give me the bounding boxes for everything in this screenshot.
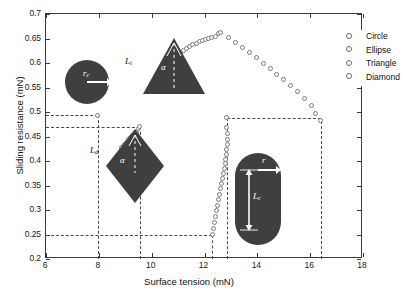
x-tick-label: 14: [252, 260, 261, 270]
x-axis-label: Surface tension (mN): [0, 276, 378, 287]
y-tick-right: [357, 112, 361, 113]
guide-line-vertical: [212, 235, 213, 260]
x-tick-top: [310, 14, 311, 18]
legend-item-diamond[interactable]: Diamond: [334, 71, 405, 84]
data-point-ellipse: [218, 186, 223, 191]
diamond-inset: Ld α: [104, 127, 166, 205]
y-tick: [46, 63, 50, 64]
data-point-ellipse: [224, 147, 229, 152]
data-point-ellipse: [213, 214, 218, 219]
capsule-inset: r Lc: [232, 150, 284, 248]
legend-marker-icon: [346, 33, 352, 39]
data-point-ellipse: [219, 181, 224, 186]
x-tick: [99, 253, 100, 257]
legend-marker-icon: [346, 60, 352, 66]
legend-label: Ellipse: [366, 44, 391, 56]
y-tick-right: [357, 186, 361, 187]
x-tick-top: [257, 14, 258, 18]
y-tick-label: 0.5: [8, 106, 41, 116]
plot-area: rc Lt α Ld: [45, 13, 362, 258]
data-point-triangle: [295, 89, 300, 94]
diamond-angle-label: α: [120, 155, 125, 165]
triangle-side-label: Lt: [125, 56, 132, 66]
guide-line-horizontal: [227, 118, 321, 119]
data-point-ellipse: [212, 220, 217, 225]
legend-marker-icon: [346, 46, 352, 52]
x-tick-top: [152, 14, 153, 18]
data-point-triangle: [268, 66, 273, 71]
data-point-triangle: [313, 111, 318, 116]
data-point-ellipse: [210, 232, 215, 237]
y-tick-right: [357, 137, 361, 138]
data-point-ellipse: [214, 208, 219, 213]
data-point-triangle: [240, 45, 245, 50]
data-point-ellipse: [225, 131, 230, 136]
y-tick: [46, 137, 50, 138]
legend-marker-icon: [346, 73, 352, 79]
triangle-inset: Lt α: [141, 36, 207, 96]
y-tick: [46, 112, 50, 113]
y-tick: [46, 161, 50, 162]
data-point-triangle: [261, 61, 266, 66]
y-tick-right: [357, 161, 361, 162]
y-tick-right: [357, 235, 361, 236]
y-tick-label: 0.25: [8, 229, 41, 239]
data-point-ellipse: [223, 157, 228, 162]
y-tick-right: [357, 210, 361, 211]
data-point-ellipse: [221, 171, 226, 176]
y-tick-right: [357, 14, 361, 15]
circle-inset: rc: [63, 58, 111, 106]
x-tick-label: 6: [43, 260, 48, 270]
x-tick: [205, 253, 206, 257]
triangle-angle-label: α: [161, 62, 166, 72]
data-point-ellipse: [217, 192, 222, 197]
x-tick-label: 16: [305, 260, 314, 270]
data-point-triangle: [274, 72, 279, 77]
y-tick-label: 0.7: [8, 8, 41, 18]
legend-item-ellipse[interactable]: Ellipse: [334, 44, 405, 57]
data-point-triangle: [318, 118, 323, 123]
y-tick-label: 0.65: [8, 33, 41, 43]
y-tick-right: [357, 88, 361, 89]
x-tick-top: [205, 14, 206, 18]
y-tick-label: 0.35: [8, 180, 41, 190]
guide-line-horizontal: [46, 115, 98, 116]
guide-line-vertical: [321, 121, 322, 259]
data-point-ellipse: [225, 137, 230, 142]
data-point-ellipse: [215, 203, 220, 208]
data-point-ellipse: [225, 142, 230, 147]
diamond-side-label: Ld: [90, 145, 98, 155]
y-tick: [46, 88, 50, 89]
y-tick-right: [357, 259, 361, 260]
legend-item-triangle[interactable]: Triangle: [334, 57, 405, 70]
data-point-ellipse: [216, 197, 221, 202]
y-tick-label: 0.2: [8, 253, 41, 263]
x-tick-top: [99, 14, 100, 18]
data-point-triangle: [247, 50, 252, 55]
data-point-triangle: [254, 55, 259, 60]
data-point-ellipse: [224, 152, 229, 157]
legend-label: Circle: [366, 30, 388, 42]
capsule-length-label: Lc: [253, 191, 261, 201]
diamond-shape: [104, 127, 166, 205]
x-tick: [257, 253, 258, 257]
y-tick-label: 0.45: [8, 131, 41, 141]
x-tick: [363, 253, 364, 257]
legend-item-circle[interactable]: Circle: [334, 30, 405, 43]
legend: CircleEllipseTriangleDiamond: [334, 30, 405, 86]
guide-line-horizontal: [46, 235, 212, 236]
y-tick-label: 0.4: [8, 155, 41, 165]
y-tick: [46, 39, 50, 40]
circle-radius-label: rc: [83, 68, 89, 78]
data-point-triangle: [233, 40, 238, 45]
x-tick: [152, 253, 153, 257]
y-tick-label: 0.55: [8, 82, 41, 92]
legend-label: Triangle: [366, 57, 396, 69]
guide-line-vertical: [98, 115, 99, 259]
y-tick: [46, 186, 50, 187]
x-tick: [310, 253, 311, 257]
data-point-ellipse: [224, 125, 229, 130]
data-point-triangle: [309, 103, 314, 108]
x-tick-label: 18: [357, 260, 366, 270]
data-point-triangle: [302, 96, 307, 101]
